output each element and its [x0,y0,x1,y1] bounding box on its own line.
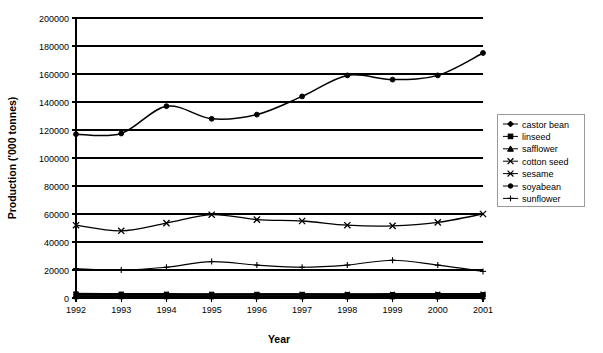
y-tick-label: 200000 [39,14,69,24]
y-tick-labels: 0200004000060000800001000001200001400001… [39,14,69,304]
x-tick-label: 2000 [428,305,448,315]
data-point-marker [390,257,396,263]
series-soyabean [74,51,486,137]
y-tick-label: 180000 [39,42,69,52]
data-point-marker [300,94,305,99]
y-axis-title: Production ('000 tonnes) [6,97,18,220]
x-tick-label: 1992 [66,305,86,315]
y-tick-label: 80000 [44,182,69,192]
y-tick-label: 100000 [39,154,69,164]
legend: castor beanlinseedsafflowercotton seedse… [498,115,585,207]
x-tick-label: 2001 [473,305,493,315]
legend-label: castor bean [522,120,569,130]
data-point-marker [209,259,215,265]
x-tick-label: 1995 [202,305,222,315]
data-point-marker [299,264,305,270]
gridlines [76,18,483,270]
legend-label: safflower [522,144,558,154]
data-point-marker [390,77,395,82]
legend-label: cotton seed [522,157,569,167]
legend-label: linseed [522,132,551,142]
data-point-marker [73,266,79,272]
y-tick-label: 160000 [39,70,69,80]
x-tick-label: 1998 [337,305,357,315]
data-point-marker [118,267,124,273]
series-line [76,214,483,231]
y-tick-label: 40000 [44,238,69,248]
data-point-marker [435,262,441,268]
chart-canvas: 0200004000060000800001000001200001400001… [0,0,603,353]
data-point-marker [435,73,440,78]
x-tick-label: 1994 [156,305,176,315]
legend-label: soyabean [522,182,561,192]
x-tick-label: 1997 [292,305,312,315]
data-point-marker [164,104,169,109]
y-tick-label: 20000 [44,266,69,276]
y-tick-label: 0 [64,294,69,304]
data-point-marker [163,264,169,270]
data-point-marker [209,116,214,121]
y-tick-label: 60000 [44,210,69,220]
legend-label: sunflower [522,194,561,204]
data-point-marker [254,112,259,117]
legend-label: sesame [522,169,554,179]
data-point-marker [344,262,350,268]
data-point-marker [345,73,350,78]
x-tick-label: 1999 [383,305,403,315]
line-chart: 0200004000060000800001000001200001400001… [0,0,603,353]
data-point-marker [254,262,260,268]
x-axis-title: Year [268,333,290,345]
y-tick-label: 120000 [39,126,69,136]
series-sunflower [73,257,486,274]
legend-marker-circle-icon [508,184,513,189]
series-line [76,53,483,136]
data-point-marker [119,131,124,136]
data-point-marker [480,268,486,274]
legend-marker-square-icon [508,134,513,139]
y-tick-label: 140000 [39,98,69,108]
x-tick-labels: 1992199319941995199619971998199920002001 [66,298,493,315]
data-point-marker [481,51,486,56]
series-layer [73,51,486,299]
x-tick-label: 1993 [111,305,131,315]
series-line [76,294,483,295]
data-point-marker [74,132,79,137]
x-tick-label: 1996 [247,305,267,315]
